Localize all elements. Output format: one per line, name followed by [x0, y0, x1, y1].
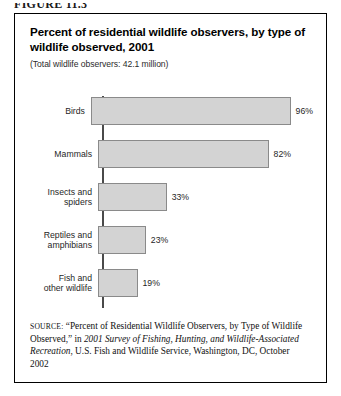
bar-row: Fish and other wildlife 19%	[30, 266, 313, 300]
bar-rect	[98, 269, 138, 297]
figure-number: FIGURE 11.3	[14, 0, 87, 12]
bar-label: Mammals	[30, 149, 98, 160]
bar-label: Fish and other wildlife	[30, 273, 98, 294]
bar-track: 82%	[98, 137, 313, 171]
bar-track: 33%	[98, 180, 313, 214]
bar-value-label: 33%	[172, 192, 189, 202]
bar-track: 96%	[91, 94, 313, 128]
bar-row: Insects and spiders 33%	[30, 180, 313, 214]
bar-rect	[91, 97, 291, 125]
bar-label: Insects and spiders	[30, 187, 98, 208]
source-label: SOURCE:	[30, 322, 63, 331]
bar-label: Reptiles and amphibians	[30, 230, 98, 251]
bar-value-label: 96%	[296, 106, 313, 116]
bar-track: 23%	[98, 223, 313, 257]
bar-rect	[98, 226, 146, 254]
chart-subtitle: (Total wildlife observers: 42.1 million)	[30, 59, 168, 69]
bar-row: Mammals 82%	[30, 137, 313, 171]
bar-row: Birds 96%	[30, 94, 313, 128]
bar-rect	[98, 183, 167, 211]
bar-track: 19%	[98, 266, 313, 300]
bar-value-label: 82%	[274, 149, 291, 159]
bar-value-label: 23%	[151, 235, 168, 245]
bar-label: Birds	[30, 106, 91, 117]
source-note: SOURCE: “Percent of Residential Wildlife…	[30, 320, 310, 370]
bar-row: Reptiles and amphibians 23%	[30, 223, 313, 257]
page-title: Percent of residential wildlife observer…	[30, 25, 312, 54]
bar-rect	[98, 140, 269, 168]
bar-chart: Birds 96% Mammals 82% Insects and spider…	[30, 94, 313, 309]
figure-box: Percent of residential wildlife observer…	[14, 13, 327, 383]
bar-value-label: 19%	[143, 278, 160, 288]
